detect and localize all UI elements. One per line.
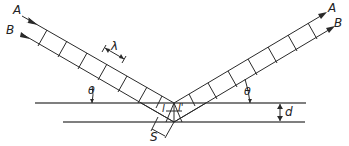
label-plane-spacing: d: [285, 106, 293, 118]
lambda-arrow-left: [105, 48, 110, 53]
label-theta-left: θ: [88, 85, 95, 96]
incident-wavefronts: [38, 30, 162, 108]
d-arrow-down: [277, 116, 283, 121]
label-beam-width: S: [150, 131, 158, 143]
arrow-in-a: [28, 18, 38, 25]
arrow-out-a: [318, 12, 327, 19]
label-ray-b-in: B: [6, 24, 14, 36]
label-ray-a-out: A: [328, 2, 336, 14]
label-path-right: l': [178, 103, 184, 113]
lambda-arrow-right: [119, 54, 124, 59]
diagram-graphics: [0, 0, 349, 146]
label-theta-right: θ: [244, 86, 251, 97]
arrow-in-b: [20, 32, 30, 39]
label-ray-b-out: B: [334, 17, 342, 29]
label-path-left: l: [162, 104, 165, 114]
d-arrow-up: [277, 104, 283, 109]
label-wavelength: λ: [111, 40, 118, 52]
bragg-diagram: A B A B λ θ θ l l' d S: [0, 0, 349, 146]
label-ray-a-in: A: [13, 4, 21, 16]
incident-ray-a: [22, 16, 174, 103]
reflected-wavefronts: [189, 23, 317, 106]
